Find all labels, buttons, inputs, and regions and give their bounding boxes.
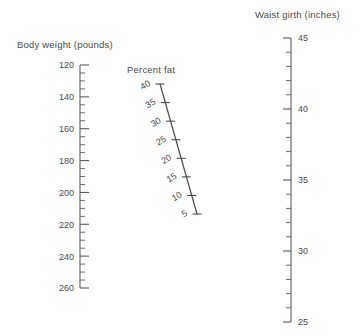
body-weight-tick-label: 180 (59, 156, 74, 166)
nomogram-figure: Body weight (pounds)12014016018020022024… (0, 0, 360, 336)
waist-girth-tick-label: 45 (298, 33, 308, 43)
body-weight-tick-label: 120 (59, 60, 74, 70)
percent-fat-tick-label: 5 (180, 208, 189, 219)
waist-girth-axis-title: Waist girth (inches) (255, 9, 340, 20)
body-weight-tick-label: 140 (59, 92, 74, 102)
percent-fat-axis-title: Percent fat (127, 64, 175, 75)
body-weight-tick-label: 240 (59, 252, 74, 262)
scale-body-weight: Body weight (pounds)12014016018020022024… (17, 39, 113, 293)
body-weight-axis-title: Body weight (pounds) (17, 39, 113, 50)
percent-fat-tick-label: 15 (165, 171, 179, 185)
scale-percent-fat: Percent fat403530252015105 (127, 64, 202, 219)
waist-girth-tick-label: 40 (298, 104, 308, 114)
percent-fat-tick-label: 25 (154, 134, 168, 148)
percent-fat-tick-label: 40 (138, 78, 152, 92)
body-weight-tick-label: 160 (59, 124, 74, 134)
body-weight-tick-label: 220 (59, 220, 74, 230)
waist-girth-tick-label: 35 (298, 175, 308, 185)
percent-fat-tick-label: 30 (149, 115, 163, 129)
percent-fat-tick-label: 10 (170, 190, 184, 204)
percent-fat-tick-label: 20 (159, 152, 173, 166)
waist-girth-tick-label: 25 (298, 317, 308, 327)
body-weight-tick-label: 200 (59, 188, 74, 198)
scale-waist-girth: Waist girth (inches)4540353025 (255, 9, 340, 327)
waist-girth-tick-label: 30 (298, 246, 308, 256)
percent-fat-tick-label: 35 (144, 97, 158, 111)
body-weight-tick-label: 260 (59, 283, 74, 293)
